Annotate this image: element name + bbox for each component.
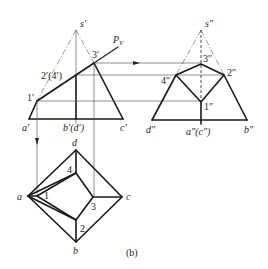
top-line-a4 [28,173,76,196]
label-d-dprime: d″ [146,124,156,135]
label-s-prime: s′ [80,18,87,29]
label-s-dprime: s″ [205,18,214,29]
label-2-4-prime: 2′(4′) [41,70,62,82]
label-pv: PV [112,34,124,47]
label-b: b [73,245,78,256]
side-edge-b [224,75,247,120]
label-ac-dprime: a″(c″) [186,126,211,138]
label-2-dprime: 2″ [227,67,236,78]
front-edge-a [29,101,37,119]
point-a-dot [27,195,30,198]
label-3: 3 [91,201,96,212]
arrow-right-icon [133,61,140,65]
side-left-edge-upper [176,30,201,75]
label-a-prime: a′ [22,122,30,133]
label-bd-prime: b′(d′) [63,122,85,134]
label-c-prime: c′ [120,122,127,133]
label-c: c [126,191,131,202]
label-1-dprime: 1″ [204,101,213,112]
top-line-a2 [28,196,76,220]
side-section-polygon [176,64,224,102]
front-edge-c [94,63,123,119]
front-left-edge-construction [37,30,76,101]
label-a: a [17,191,22,202]
label-b-dprime: b″ [244,124,254,135]
top-base-square [28,150,122,242]
label-3-prime: 3′ [92,49,99,60]
top-view: d a c b 1 2 3 4 [17,137,131,256]
section-line-pv [37,63,94,101]
label-4-dprime: 4″ [161,75,170,86]
label-d: d [72,137,78,148]
figure-caption: (b) [126,247,138,259]
label-3-dprime: 3″ [203,53,212,64]
label-1: 1 [44,190,49,201]
front-view: s′ PV 3′ 2′(4′) 1′ a′ b′(d′) c′ [22,18,127,134]
arrow-down-icon [35,138,39,145]
side-view: s″ 3″ 2″ 4″ 1″ d″ a″(c″) b″ [146,18,254,138]
label-1-prime: 1′ [27,92,34,103]
label-2: 2 [80,223,85,234]
pyramid-section-diagram: s′ PV 3′ 2′(4′) 1′ a′ b′(d′) c′ s″ 3″ 2″… [0,0,268,269]
label-4: 4 [67,164,72,175]
